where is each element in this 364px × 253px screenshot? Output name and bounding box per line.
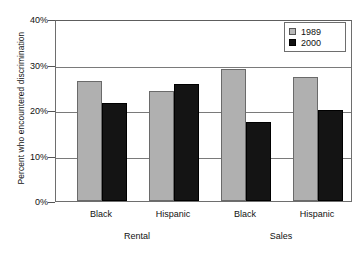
bar-rental-hispanic-2000: [174, 84, 199, 201]
y-tick-mark-20: [48, 111, 55, 112]
x-label-rental-black: Black: [90, 209, 112, 219]
x-label-sales-hispanic: Hispanic: [300, 209, 335, 219]
group-label-sales: Sales: [270, 231, 293, 241]
bar-chart: Percent who encountered discrimination 4…: [0, 0, 364, 253]
y-tick-label-20: 20%: [12, 106, 48, 116]
x-label-rental-hispanic: Hispanic: [156, 209, 191, 219]
gray-square-icon: [289, 28, 296, 35]
bar-rental-black-2000: [102, 103, 127, 201]
y-tick-label-0: 0%: [12, 197, 48, 207]
gridline-30: [56, 67, 351, 68]
group-label-rental: Rental: [124, 231, 150, 241]
black-square-icon: [289, 39, 296, 46]
y-tick-mark-0: [48, 202, 55, 203]
bar-sales-hispanic-1989: [293, 77, 318, 201]
y-tick-label-30: 30%: [12, 61, 48, 71]
plot-area: 1989 2000: [55, 20, 352, 202]
y-tick-mark-10: [48, 157, 55, 158]
x-label-sales-black: Black: [234, 209, 256, 219]
bar-sales-black-1989: [221, 69, 246, 201]
legend: 1989 2000: [284, 22, 346, 52]
bar-rental-hispanic-1989: [149, 91, 174, 201]
legend-entry-1989: 1989: [289, 26, 341, 37]
bar-sales-black-2000: [246, 122, 271, 201]
y-tick-mark-30: [48, 66, 55, 67]
bar-sales-hispanic-2000: [318, 110, 343, 201]
bar-rental-black-1989: [77, 81, 102, 201]
legend-entry-2000: 2000: [289, 37, 341, 48]
legend-label-1989: 1989: [301, 27, 321, 37]
y-tick-label-40: 40%: [12, 15, 48, 25]
y-tick-mark-40: [48, 20, 55, 21]
legend-label-2000: 2000: [301, 38, 321, 48]
y-tick-label-10: 10%: [12, 152, 48, 162]
